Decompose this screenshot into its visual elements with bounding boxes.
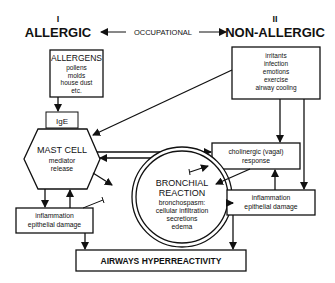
trigger-item: airway cooling <box>255 84 297 92</box>
bronchial-title: BRONCHIAL <box>156 178 209 188</box>
allergen-item: etc. <box>71 87 82 94</box>
cholinergic-line: response <box>242 157 270 165</box>
allergen-item: house dust <box>61 79 93 86</box>
mast-cell-hexagon: MAST CELL mediator release <box>24 129 100 189</box>
arrow-triggers-to-mast-cell <box>93 70 232 135</box>
mast-cell-line: release <box>51 165 74 172</box>
bronchial-title: REACTION <box>159 188 206 198</box>
bronchial-reaction-circle: BRONCHIAL REACTION bronchospasm: cellula… <box>132 147 232 247</box>
inflammation-left-line: epithelial damage <box>28 221 81 229</box>
inflammation-right-box: inflammation epithelial damage <box>227 190 315 215</box>
airways-hyperreactivity-box: AIRWAYS HYPERREACTIVITY <box>76 250 246 271</box>
inflammation-right-line: inflammation <box>252 194 291 201</box>
allergens-title: ALLERGENS <box>51 53 102 63</box>
allergens-box: ALLERGENS pollens molds house dust etc. <box>50 50 103 97</box>
arrow-mast-cell-to-bronchial <box>93 173 112 185</box>
trigger-item: emotions <box>263 68 290 75</box>
inflammation-left-box: inflammation epithelial damage <box>16 208 93 233</box>
cholinergic-line: cholinergic (vagal) <box>228 148 283 156</box>
trigger-item: infection <box>264 60 289 67</box>
ige-label: IgE <box>56 117 68 126</box>
bronchial-line: edema <box>172 223 193 230</box>
allergen-item: molds <box>68 72 86 79</box>
header: I ALLERGIC OCCUPATIONAL II NON-ALLERGIC <box>25 14 326 40</box>
trigger-item: exercise <box>264 76 289 83</box>
bronchial-line: cellular infiltration <box>156 207 209 214</box>
inhibit-line-left <box>83 200 103 208</box>
airways-hyperreactivity-label: AIRWAYS HYPERREACTIVITY <box>101 256 222 266</box>
mast-cell-title: MAST CELL <box>37 145 87 155</box>
allergic-title: ALLERGIC <box>25 25 92 40</box>
occupational-label: OCCUPATIONAL <box>134 28 192 37</box>
asthma-pathway-diagram: I ALLERGIC OCCUPATIONAL II NON-ALLERGIC … <box>0 0 335 283</box>
nonallergic-title: NON-ALLERGIC <box>225 25 325 40</box>
ige-box: IgE <box>46 112 78 128</box>
nonallergic-numeral: II <box>272 14 277 24</box>
bronchial-line: secretions <box>167 215 199 222</box>
inflammation-right-line: epithelial damage <box>244 203 297 211</box>
allergic-numeral: I <box>57 14 60 24</box>
nonallergic-triggers-box: irritants infection emotions exercise ai… <box>232 47 320 99</box>
bronchial-line: bronchospasm: <box>159 199 206 207</box>
mast-cell-line: mediator <box>49 157 76 164</box>
inflammation-left-line: inflammation <box>35 212 74 219</box>
trigger-item: irritants <box>265 52 287 59</box>
cholinergic-box: cholinergic (vagal) response <box>212 143 300 169</box>
